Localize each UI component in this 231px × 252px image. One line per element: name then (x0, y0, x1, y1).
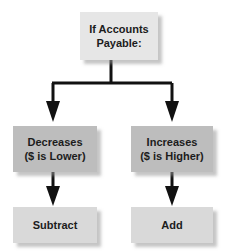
subtract-label: Subtract (33, 218, 78, 232)
arrowhead-add (165, 186, 179, 206)
root-label-line1: If Accounts (89, 22, 149, 36)
result-node-subtract: Subtract (13, 207, 97, 243)
arrowhead-subtract (46, 186, 60, 206)
arrowhead-decreases (46, 101, 60, 122)
condition-node-decreases: Decreases ($ is Lower) (13, 126, 97, 172)
condition-node-increases: Increases ($ is Higher) (131, 126, 213, 172)
root-node: If Accounts Payable: (80, 12, 158, 60)
arrowhead-increases (165, 101, 179, 122)
increases-label: Increases (140, 135, 204, 149)
root-label-line2: Payable: (89, 36, 149, 50)
add-label: Add (161, 218, 182, 232)
result-node-add: Add (131, 207, 213, 243)
increases-sublabel: ($ is Higher) (140, 149, 204, 163)
decreases-sublabel: ($ is Lower) (24, 149, 85, 163)
decreases-label: Decreases (24, 135, 85, 149)
